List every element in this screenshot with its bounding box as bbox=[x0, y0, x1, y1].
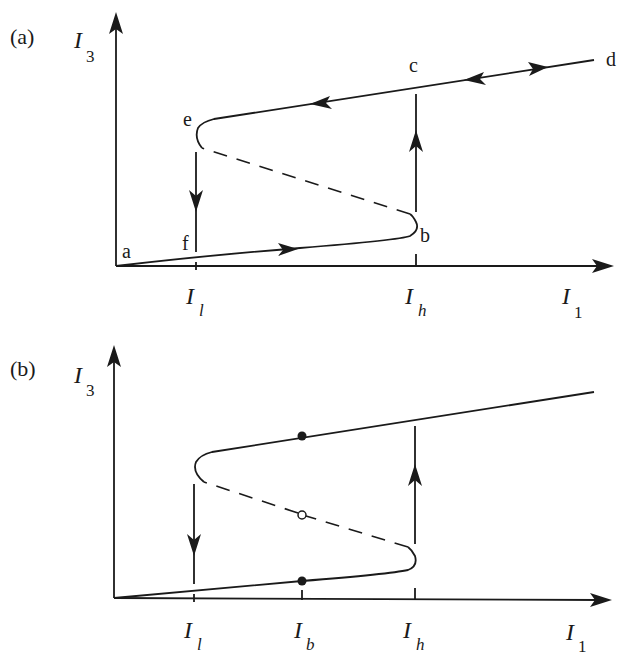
panel-a-tick-il-label: I bbox=[185, 283, 195, 309]
panel-b-y-axis-label: I bbox=[73, 362, 83, 388]
panel-a-point-a: a bbox=[122, 240, 131, 262]
panel-a-lower-branch bbox=[116, 214, 417, 266]
panel-b-unstable-branch-right bbox=[306, 516, 408, 547]
panel-a-tick-il-sub: l bbox=[199, 301, 204, 320]
panel-a: (a) I 3 I l I h I 1 bbox=[10, 12, 616, 322]
panel-a-tick-ih-label: I bbox=[404, 283, 414, 309]
panel-a-point-b: b bbox=[420, 224, 430, 246]
hysteresis-diagram: (a) I 3 I l I h I 1 bbox=[0, 0, 628, 665]
panel-b-tick-ib-sub: b bbox=[306, 635, 315, 654]
panel-b-x-axis-label: I bbox=[565, 619, 575, 645]
panel-a-y-axis-label: I bbox=[73, 27, 83, 53]
panel-b-tick-ib-label: I bbox=[293, 617, 303, 643]
panel-a-point-f: f bbox=[182, 232, 189, 254]
panel-a-point-e: e bbox=[183, 108, 192, 130]
panel-a-label: (a) bbox=[10, 24, 34, 49]
stable-equilibrium-upper-dot bbox=[298, 432, 307, 441]
unstable-equilibrium-dot bbox=[298, 511, 306, 519]
stable-equilibrium-lower-dot bbox=[298, 577, 307, 586]
panel-b-x-axis-sub: 1 bbox=[578, 637, 587, 656]
panel-a-point-d: d bbox=[606, 48, 616, 70]
panel-a-tick-ih-sub: h bbox=[418, 301, 427, 320]
panel-a-x-axis-sub: 1 bbox=[574, 303, 583, 322]
panel-b-tick-il-label: I bbox=[183, 617, 193, 643]
panel-b-label: (b) bbox=[10, 356, 36, 381]
panel-b-x-axis bbox=[114, 598, 600, 600]
panel-b: (b) I 3 I l I b I h I 1 bbox=[10, 345, 612, 656]
panel-b-lower-branch bbox=[114, 547, 416, 598]
panel-b-y-axis-sub: 3 bbox=[86, 381, 95, 400]
panel-a-upper-arrow-left2-icon bbox=[464, 72, 486, 85]
panel-b-unstable-branch-left bbox=[204, 482, 298, 513]
panel-a-unstable-branch bbox=[202, 148, 410, 214]
panel-a-y-axis-sub: 3 bbox=[86, 47, 95, 66]
panel-a-upper-arrow-left-icon bbox=[310, 96, 332, 109]
panel-a-point-c: c bbox=[409, 54, 418, 76]
panel-b-upper-branch bbox=[195, 392, 594, 482]
panel-a-x-axis-label: I bbox=[561, 283, 571, 309]
panel-b-tick-ih-sub: h bbox=[416, 635, 425, 654]
panel-b-tick-ih-label: I bbox=[402, 617, 412, 643]
panel-b-tick-il-sub: l bbox=[197, 635, 202, 654]
